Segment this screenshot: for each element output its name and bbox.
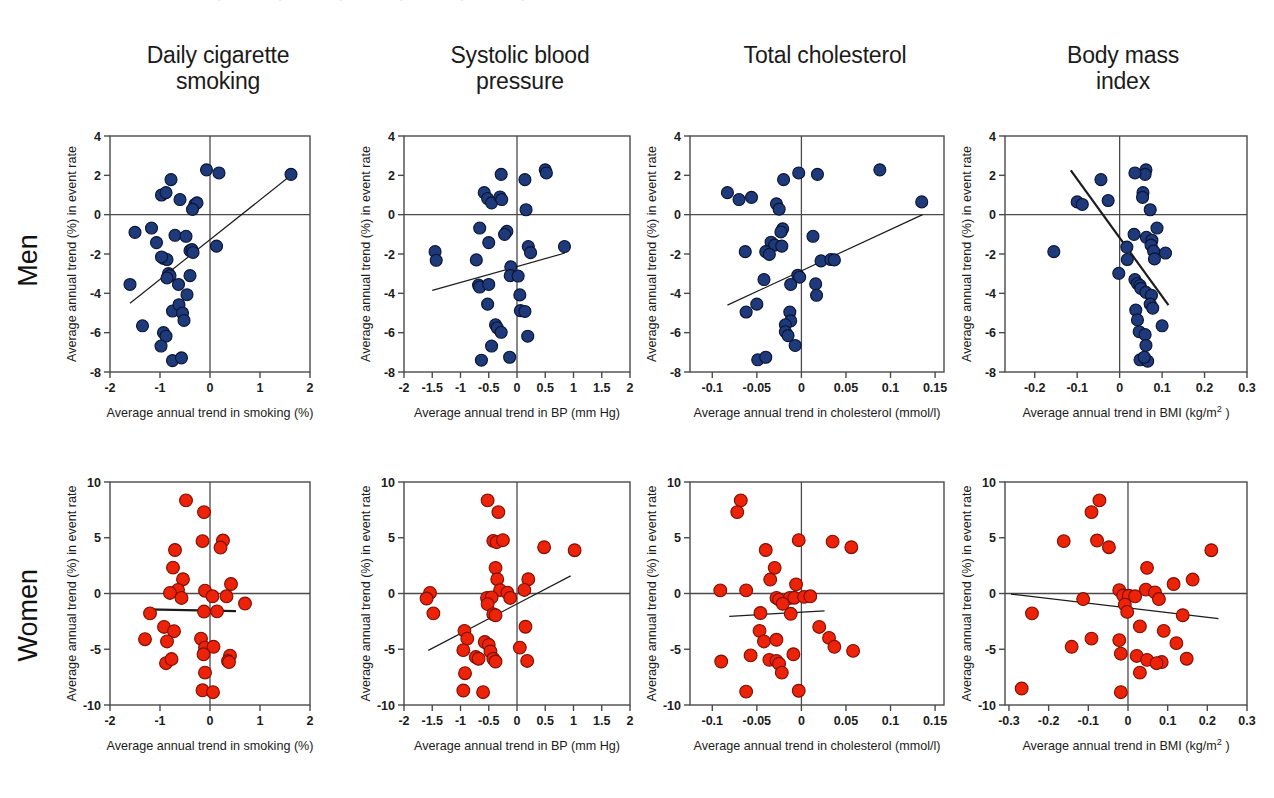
data-point bbox=[178, 314, 190, 326]
data-point bbox=[1129, 590, 1142, 603]
data-point bbox=[156, 251, 168, 263]
y-tick-label: -8 bbox=[384, 366, 395, 380]
data-point bbox=[160, 187, 172, 199]
data-point bbox=[525, 247, 537, 259]
data-point bbox=[1102, 195, 1114, 207]
data-point bbox=[519, 620, 532, 633]
data-point bbox=[758, 274, 770, 286]
data-point bbox=[483, 237, 495, 249]
data-point bbox=[180, 230, 192, 242]
data-point bbox=[197, 648, 210, 661]
data-point bbox=[790, 578, 803, 591]
data-point bbox=[167, 561, 180, 574]
data-point bbox=[199, 666, 212, 679]
data-point bbox=[734, 494, 747, 507]
data-point bbox=[789, 339, 801, 351]
data-point bbox=[519, 305, 531, 317]
data-point bbox=[1153, 593, 1166, 606]
x-tick-label: 0 bbox=[798, 714, 805, 728]
data-point bbox=[164, 587, 177, 600]
row-label-women: Women bbox=[13, 570, 44, 662]
data-point bbox=[1167, 578, 1180, 591]
data-point bbox=[744, 649, 757, 662]
y-tick-label: -10 bbox=[663, 699, 681, 713]
data-point bbox=[155, 340, 167, 352]
x-tick-label: -1.5 bbox=[421, 381, 443, 395]
y-axis-title: Average annual trend (%) in event rate bbox=[645, 146, 659, 362]
data-point bbox=[1085, 506, 1098, 519]
scatter-panel-men-bmi: -0.2-0.100.10.20.3-8-6-4-2024Average ann… bbox=[953, 124, 1273, 430]
clipped-header-text: ······ bbox=[0, 0, 1274, 8]
data-point bbox=[721, 187, 733, 199]
data-point bbox=[475, 354, 487, 366]
x-tick-label: 2 bbox=[307, 714, 314, 728]
data-point bbox=[740, 306, 752, 318]
x-tick-label: -0.5 bbox=[478, 714, 500, 728]
data-point bbox=[558, 241, 570, 253]
x-tick-label: 0 bbox=[514, 714, 521, 728]
y-tick-label: 0 bbox=[388, 208, 395, 222]
column-title-bmi: Body mass index bbox=[1018, 42, 1228, 94]
x-tick-label: -0.1 bbox=[702, 381, 724, 395]
y-tick-label: 10 bbox=[87, 476, 101, 490]
data-point bbox=[489, 561, 502, 574]
y-tick-label: -4 bbox=[384, 287, 395, 301]
x-tick-label: 2 bbox=[627, 714, 634, 728]
x-tick-label: 0.5 bbox=[537, 714, 554, 728]
x-axis-title: Average annual trend in cholesterol (mmo… bbox=[694, 406, 941, 420]
x-tick-label: 0.3 bbox=[1238, 381, 1255, 395]
data-point bbox=[1151, 222, 1163, 234]
data-point bbox=[165, 174, 177, 186]
data-point bbox=[1157, 624, 1170, 637]
x-tick-label: -0.2 bbox=[1024, 381, 1046, 395]
x-axis-title: Average annual trend in smoking (%) bbox=[107, 406, 314, 420]
x-tick-label: 0.2 bbox=[1199, 714, 1216, 728]
x-tick-label: 0.05 bbox=[834, 381, 858, 395]
x-tick-label: -2 bbox=[398, 714, 409, 728]
data-point bbox=[137, 320, 149, 332]
x-tick-label: 0.15 bbox=[923, 381, 947, 395]
x-tick-label: 1 bbox=[257, 381, 264, 395]
x-tick-label: 0.5 bbox=[537, 381, 554, 395]
x-tick-label: -0.05 bbox=[743, 381, 772, 395]
x-tick-label: 2 bbox=[307, 381, 314, 395]
figure-root: ······ Daily cigarette smoking Systolic … bbox=[0, 0, 1274, 798]
data-point bbox=[520, 204, 532, 216]
data-point bbox=[165, 653, 178, 666]
data-point bbox=[198, 605, 211, 618]
data-point bbox=[187, 246, 199, 258]
data-point bbox=[486, 340, 498, 352]
y-tick-label: 10 bbox=[381, 476, 395, 490]
y-tick-label: -5 bbox=[670, 643, 681, 657]
data-point bbox=[1026, 607, 1039, 620]
x-axis-title: Average annual trend in cholesterol (mmo… bbox=[694, 739, 941, 753]
scatter-panel-women-bp: -2-1.5-1-0.500.511.52-10-50510Average an… bbox=[352, 470, 656, 763]
x-tick-label: -1 bbox=[455, 714, 466, 728]
y-tick-label: 4 bbox=[674, 130, 681, 144]
y-tick-label: -4 bbox=[90, 287, 101, 301]
data-point bbox=[175, 592, 188, 605]
data-point bbox=[169, 229, 181, 241]
data-point bbox=[1093, 494, 1106, 507]
data-point bbox=[196, 535, 209, 548]
data-point bbox=[540, 167, 552, 179]
data-point bbox=[1113, 267, 1125, 279]
data-point bbox=[1077, 593, 1090, 606]
x-tick-label: 1.5 bbox=[593, 714, 610, 728]
data-point bbox=[427, 607, 440, 620]
data-point bbox=[521, 655, 534, 668]
data-point bbox=[181, 289, 193, 301]
data-point bbox=[472, 652, 485, 665]
data-point bbox=[733, 194, 745, 206]
y-tick-label: -8 bbox=[670, 366, 681, 380]
y-tick-label: -6 bbox=[985, 326, 996, 340]
row-label-men: Men bbox=[13, 226, 44, 296]
x-axis-title: Average annual trend in BMI (kg/m2 ) bbox=[1022, 737, 1229, 753]
y-tick-label: 0 bbox=[989, 587, 996, 601]
data-point bbox=[457, 644, 470, 657]
data-point bbox=[1156, 320, 1168, 332]
data-point bbox=[146, 222, 158, 234]
data-point bbox=[1057, 535, 1070, 548]
data-point bbox=[847, 645, 860, 658]
y-tick-label: 0 bbox=[388, 587, 395, 601]
